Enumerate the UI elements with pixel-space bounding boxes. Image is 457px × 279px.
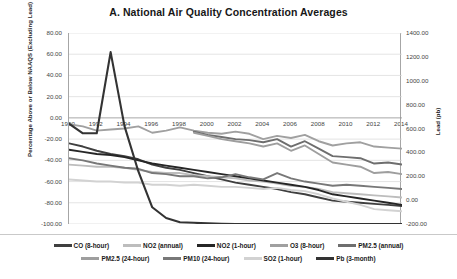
legend-item-label: PM2.5 (annual) [358,242,403,249]
legend-item-label: NO2 (annual) [143,242,183,249]
y-axis-left-tick-label: -20.00 [20,135,62,142]
legend-item-label: PM10 (24-hour) [183,255,229,262]
legend-color-swatch [163,257,181,260]
legend-item-label: O3 (8-hour) [290,242,324,249]
chart-container: A. National Air Quality Concentration Av… [0,0,457,279]
legend-item[interactable]: Pb (3-month) [316,255,375,262]
y-axis-left-tick-label: -80.00 [20,199,62,206]
y-axis-right-tick-label: 800.00 [406,101,448,108]
legend-item[interactable]: SO2 (1-hour) [244,255,303,262]
y-axis-left-tick-label: 20.00 [20,93,62,100]
y-axis-right-tick-label: 200.00 [406,172,448,179]
legend-color-swatch [81,257,99,260]
y-axis-right-tick-label: 0.00 [406,196,448,203]
legend-item-label: CO (8-hour) [74,242,110,249]
y-axis-left-tick-label: 80.00 [20,29,62,36]
legend-color-swatch [197,244,215,247]
series-line [69,158,402,189]
legend-item[interactable]: NO2 (annual) [123,242,183,249]
chart-legend: CO (8-hour)NO2 (annual)NO2 (1-hour)O3 (8… [0,234,457,276]
series-line [69,179,402,211]
y-axis-left-title: Percentage Above or Below NAAQS (Excludi… [26,0,33,175]
y-axis-right-tick-label: 1200.00 [406,53,448,60]
legend-item[interactable]: PM2.5 (24-hour) [81,255,149,262]
y-axis-left-tick-label: -40.00 [20,156,62,163]
y-axis-right-tick-label: 400.00 [406,148,448,155]
legend-color-swatch [54,244,72,247]
legend-color-swatch [123,244,141,247]
y-axis-right-tick-label: -200.00 [406,220,448,227]
legend-row-2: PM2.5 (24-hour)PM10 (24-hour)SO2 (1-hour… [0,252,457,265]
legend-item-label: NO2 (1-hour) [217,242,256,249]
legend-row-1: CO (8-hour)NO2 (annual)NO2 (1-hour)O3 (8… [0,239,457,252]
y-axis-left-tick-label: 60.00 [20,50,62,57]
legend-item[interactable]: PM2.5 (annual) [338,242,403,249]
legend-color-swatch [244,257,262,260]
legend-color-swatch [316,257,334,260]
legend-color-swatch [270,244,288,247]
series-line [69,165,402,198]
y-axis-left-tick-label: -100.00 [20,220,62,227]
chart-title: A. National Air Quality Concentration Av… [0,6,457,18]
legend-item[interactable]: CO (8-hour) [54,242,110,249]
y-axis-left-tick-label: -60.00 [20,178,62,185]
y-axis-right-tick-label: 1000.00 [406,77,448,84]
legend-item[interactable]: PM10 (24-hour) [163,255,229,262]
legend-item-label: SO2 (1-hour) [264,255,303,262]
legend-item[interactable]: O3 (8-hour) [270,242,324,249]
y-axis-left-tick-label: 40.00 [20,71,62,78]
legend-color-swatch [338,244,356,247]
legend-item[interactable]: NO2 (1-hour) [197,242,256,249]
plot-area [68,33,401,224]
series-line [69,124,402,148]
plot-svg [69,33,402,224]
legend-item-label: PM2.5 (24-hour) [101,255,149,262]
y-axis-right-tick-label: 1400.00 [406,29,448,36]
legend-item-label: Pb (3-month) [336,255,375,262]
